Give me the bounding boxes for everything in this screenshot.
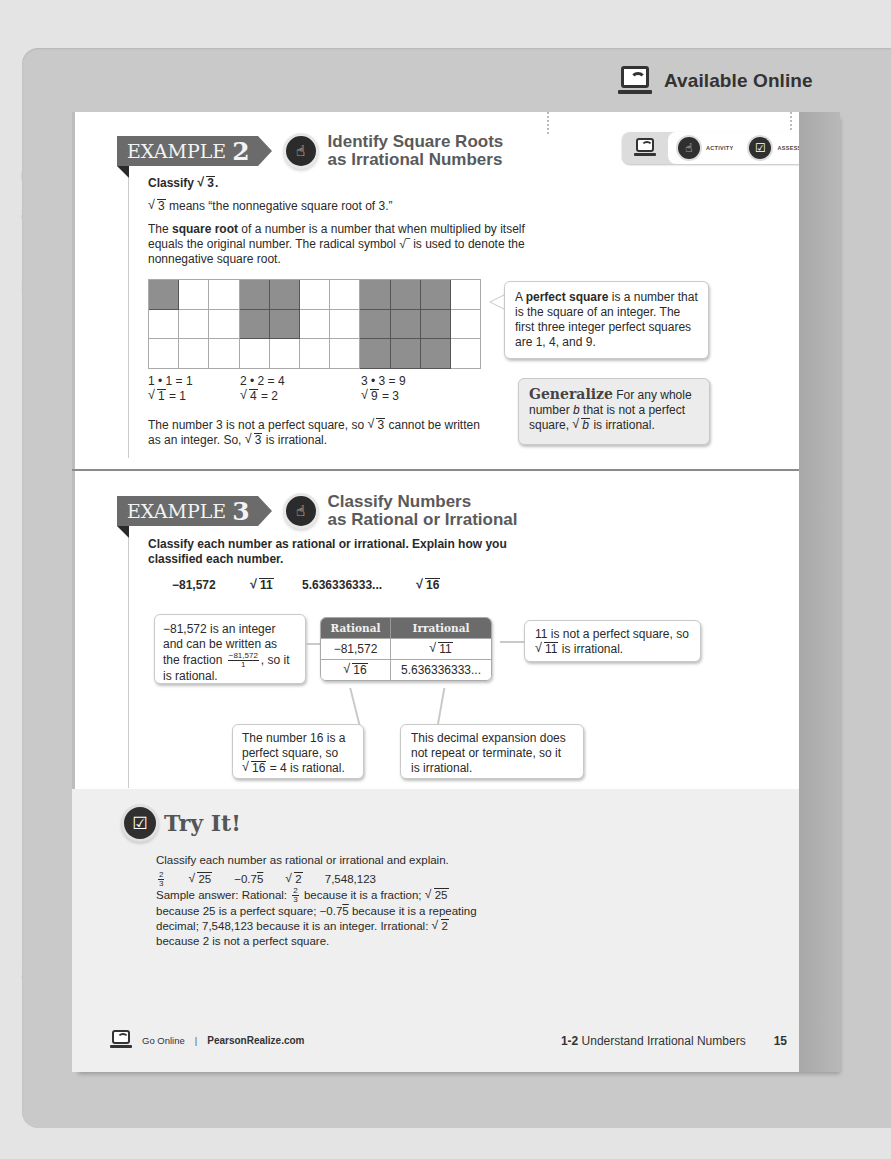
grid-cell: [451, 310, 481, 340]
table-row: 16 5.636336333...: [321, 659, 491, 680]
text: is irrational.: [262, 433, 327, 447]
available-online-header: Available Online: [618, 66, 813, 96]
example-2-definition: The square root of a number is a number …: [148, 222, 548, 267]
grid-cell: [240, 280, 270, 310]
radicand: 4: [249, 389, 258, 403]
perfect-square-callout: A perfect square is a number that is the…: [504, 281, 709, 359]
text: = 2: [258, 389, 278, 403]
number-1: −81,572: [172, 578, 216, 593]
grid-cell: [270, 339, 300, 369]
grid-cell: [149, 339, 179, 369]
example-tag-number: 3: [232, 497, 249, 526]
text: The number 16 is a perfect square, so: [242, 731, 345, 760]
example-2-banner: EXAMPLE 2 ☝ Identify Square Roots as Irr…: [117, 136, 503, 166]
activity-label[interactable]: ACTIVITY: [706, 145, 733, 151]
radical: 25: [425, 888, 449, 903]
hand-pointer-icon[interactable]: ☝: [678, 137, 700, 159]
radicand: 16: [425, 578, 440, 592]
key-term: perfect square: [526, 290, 609, 304]
radicand: 16: [352, 663, 367, 677]
radical: 2: [285, 872, 302, 887]
generalize-callout: Generalize For any whole number b that i…: [518, 378, 710, 445]
classification-table: Rational Irrational −81,572 11 16 5.6363…: [320, 617, 492, 681]
try-it-title: Try It!: [164, 810, 241, 836]
try-it-answer: Sample answer: Rational: 23 because it i…: [156, 887, 491, 949]
text: means “the nonnegative square root of 3.…: [166, 199, 393, 213]
online-toolbar-laptop[interactable]: [622, 138, 668, 158]
grid-cell: [330, 339, 360, 369]
grid-cell: [179, 310, 209, 340]
laptop-wifi-icon: [634, 138, 656, 158]
table-cell: 5.636336333...: [391, 659, 491, 680]
grid-cell: [421, 280, 451, 310]
text: because 2 is not a perfect square.: [156, 935, 329, 947]
radical: 16: [343, 663, 367, 677]
text: Sample answer: Rational:: [156, 889, 290, 901]
go-online-link[interactable]: Go Online | PearsonRealize.com: [110, 1030, 305, 1050]
grid-cell: [209, 280, 239, 310]
grid-cell: [451, 280, 481, 310]
fraction: −81,5721: [228, 652, 259, 669]
radicand: 2: [294, 872, 302, 886]
online-toolbar: ☝ ACTIVITY ☑ ASSESS: [622, 132, 799, 164]
product-3: 3 • 3 = 9 9 = 3: [361, 374, 406, 404]
example-tag-arrow: [258, 496, 272, 526]
number-3: 5.636336333...: [302, 578, 382, 593]
grid-cell: [360, 339, 390, 369]
grid-cell: [240, 339, 270, 369]
site-link[interactable]: PearsonRealize.com: [207, 1035, 304, 1046]
grid-cell: [391, 339, 421, 369]
text: The: [148, 222, 172, 236]
example-2-meaning: 3 means “the nonnegative square root of …: [148, 199, 393, 214]
grid-cell: [451, 339, 481, 369]
text: is irrational.: [558, 642, 623, 656]
grid-cell: [300, 280, 330, 310]
radical: 11: [250, 578, 274, 593]
text: A: [515, 290, 526, 304]
grid-cell: [391, 280, 421, 310]
hand-pointer-icon[interactable]: ☝: [286, 496, 316, 526]
radical: 3: [367, 418, 385, 433]
text: .: [215, 176, 218, 190]
check-box-icon[interactable]: ☑: [749, 137, 771, 159]
radical: 2: [432, 919, 449, 934]
go-online-label: Go Online: [142, 1035, 185, 1046]
grid-cell: [300, 339, 330, 369]
radical: 3: [197, 176, 215, 191]
callout-connector: [349, 688, 360, 726]
grid-cell: [330, 310, 360, 340]
radical: 9: [361, 389, 379, 404]
page-number: 15: [774, 1034, 787, 1048]
grid-cell: [360, 280, 390, 310]
text: −0.7: [234, 873, 257, 885]
grid-cell: [391, 310, 421, 340]
example-margin-line: [128, 538, 129, 788]
section-divider: [72, 469, 799, 471]
radicand: 1: [157, 389, 166, 403]
radicand: 3: [254, 433, 263, 447]
product-equation: 3 • 3 = 9: [361, 374, 406, 389]
hand-pointer-icon[interactable]: ☝: [286, 136, 316, 166]
denominator: 1: [241, 661, 245, 669]
grid-cell: [270, 280, 300, 310]
try-it-prompt: Classify each number as rational or irra…: [156, 853, 449, 868]
text: 11 is not a perfect square, so: [535, 627, 689, 641]
generalize-label: Generalize: [529, 386, 613, 402]
assess-label[interactable]: ASSESS: [777, 145, 799, 151]
example-title-line: Classify Numbers: [328, 493, 518, 511]
example-tag-fold: [117, 166, 129, 178]
example-title-line: as Irrational Numbers: [328, 151, 504, 169]
grid-cell: [270, 310, 300, 340]
laptop-wifi-icon: [110, 1030, 132, 1050]
available-online-label: Available Online: [664, 70, 813, 92]
lesson-title: Understand Irrational Numbers: [582, 1034, 746, 1048]
ghost-line: [20, 4, 871, 42]
product-equation: 2 • 2 = 4: [240, 374, 285, 389]
text: because 25 is a perfect square;: [156, 905, 320, 917]
radicand: 25: [434, 888, 449, 902]
decimal-callout: This decimal expansion does not repeat o…: [400, 724, 584, 779]
grid-cell: [149, 280, 179, 310]
radical: 16: [242, 761, 266, 776]
example-title-line: Identify Square Roots: [328, 133, 504, 151]
example-3-title: Classify Numbers as Rational or Irration…: [328, 493, 518, 529]
